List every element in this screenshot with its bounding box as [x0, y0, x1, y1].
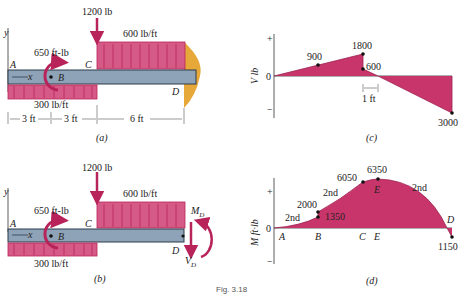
beam — [8, 70, 196, 84]
svg-text:D: D — [171, 245, 180, 256]
distributed-load-top-label: 600 lb/ft — [123, 28, 157, 39]
svg-text:1350: 1350 — [325, 211, 345, 222]
point-a-label: A — [9, 59, 17, 70]
svg-text:B: B — [315, 231, 321, 242]
svg-text:D: D — [446, 214, 455, 225]
svg-text:E: E — [373, 231, 380, 242]
svg-text:0: 0 — [266, 71, 271, 82]
svg-text:3000: 3000 — [438, 117, 458, 128]
svg-text:2000: 2000 — [297, 199, 317, 210]
point-b-label: B — [58, 72, 64, 83]
panel-c-caption: (c) — [366, 132, 378, 144]
axis-y-label-b: y — [3, 186, 9, 197]
svg-text:−: − — [267, 104, 273, 115]
svg-text:300 lb/ft: 300 lb/ft — [34, 258, 68, 269]
dim-bc: 3 ft — [64, 113, 78, 124]
svg-text:MD: MD — [190, 205, 204, 219]
svg-text:600: 600 — [366, 61, 381, 72]
beam-b — [8, 229, 184, 242]
panel-a-caption: (a) — [96, 132, 108, 144]
svg-text:x: x — [27, 229, 33, 240]
svg-text:C: C — [359, 231, 366, 242]
point-c-label: C — [85, 59, 92, 70]
svg-text:A: A — [9, 218, 17, 229]
point-d-label: D — [171, 86, 180, 97]
svg-text:900: 900 — [307, 51, 322, 62]
svg-text:+: + — [267, 33, 273, 44]
shear-axis-label: V lb — [249, 68, 260, 84]
svg-text:1 ft: 1 ft — [362, 93, 376, 104]
panel-a: y 1200 lb 600 lb/ft x 300 lb/ft 650 ft-l… — [3, 6, 201, 144]
svg-text:B: B — [58, 231, 64, 242]
moment-reaction-arrow — [201, 222, 212, 257]
svg-text:C: C — [85, 218, 92, 229]
distributed-load-top-label-b: 600 lb/ft — [123, 188, 157, 199]
figure-caption: Fig. 3.18 — [216, 285, 248, 294]
moment-axis-label: M ft·lb — [249, 219, 260, 247]
distributed-load-top-b — [97, 202, 185, 228]
point-load-label-b: 1200 lb — [82, 162, 112, 173]
panel-d-caption: (d) — [366, 275, 378, 287]
svg-text:650 ft-lb: 650 ft-lb — [34, 205, 69, 216]
svg-text:A: A — [278, 231, 286, 242]
svg-text:6350: 6350 — [367, 164, 387, 175]
shear-positive-area — [274, 54, 378, 76]
svg-text:−: − — [267, 256, 273, 267]
axis-x-label: x — [27, 71, 33, 82]
svg-text:0: 0 — [266, 223, 271, 234]
panel-b-caption: (b) — [94, 273, 106, 285]
svg-text:1150: 1150 — [438, 241, 458, 252]
distributed-load-top — [97, 42, 185, 69]
dim-ab: 3 ft — [22, 113, 36, 124]
svg-text:2nd: 2nd — [285, 212, 300, 223]
svg-text:1800: 1800 — [352, 40, 372, 51]
svg-text:2nd: 2nd — [412, 182, 427, 193]
svg-text:6050: 6050 — [337, 172, 357, 183]
panel-d-moment-diagram: + 0 − M ft·lb 2000 1350 6050 6350 1150 2… — [249, 164, 458, 287]
svg-text:+: + — [267, 186, 273, 197]
svg-text:2nd: 2nd — [323, 187, 338, 198]
axis-y-label: y — [3, 27, 9, 38]
panel-b: y 1200 lb 600 lb/ft x 300 lb/ft 650 ft-l… — [3, 162, 212, 285]
distributed-load-bottom-label: 300 lb/ft — [34, 99, 68, 110]
point-load-label: 1200 lb — [82, 6, 112, 17]
svg-text:E: E — [373, 184, 380, 195]
moment-label: 650 ft-lb — [34, 47, 69, 58]
svg-text:VD: VD — [185, 255, 196, 269]
panel-c-shear-diagram: + 0 − V lb 900 1800 600 3000 1 ft (c) — [249, 33, 458, 144]
figure-canvas: y 1200 lb 600 lb/ft x 300 lb/ft 650 ft-l… — [0, 0, 463, 294]
dim-cd: 6 ft — [130, 113, 144, 124]
